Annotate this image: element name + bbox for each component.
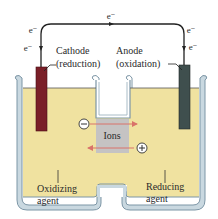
oxidizing-agent-label: Oxidizing <box>37 183 77 194</box>
anode-electrode <box>179 65 190 129</box>
electron-label-left-upper: e⁻ <box>29 25 38 35</box>
electron-label-right-lower: e⁻ <box>189 42 198 52</box>
oxidizing-agent-sublabel: agent <box>37 195 59 206</box>
cathode-electrode <box>36 67 47 131</box>
galvanic-cell-diagram: e⁻ e⁻ e⁻ e⁻ e⁻ Cathode (reduction) Anode… <box>0 0 218 219</box>
wire-arrow-left <box>39 46 43 51</box>
reducing-agent-label: Reducing <box>146 181 184 192</box>
cathode-sublabel: (reduction) <box>56 58 100 70</box>
diagram-canvas: e⁻ e⁻ e⁻ e⁻ e⁻ Cathode (reduction) Anode… <box>0 0 218 219</box>
cathode-label: Cathode <box>56 45 90 56</box>
electron-label-right-upper: e⁻ <box>187 25 196 35</box>
wire-arrow-right <box>182 46 186 51</box>
electron-label-top: e⁻ <box>107 11 116 21</box>
anode-label: Anode <box>116 45 143 56</box>
reducing-agent-sublabel: agent <box>146 193 168 204</box>
ions-label: Ions <box>103 130 120 141</box>
left-solution-fill <box>23 88 99 197</box>
anode-sublabel: (oxidation) <box>116 58 160 70</box>
wire-arrow-top <box>109 22 114 26</box>
electron-label-left-lower: e⁻ <box>24 43 33 53</box>
